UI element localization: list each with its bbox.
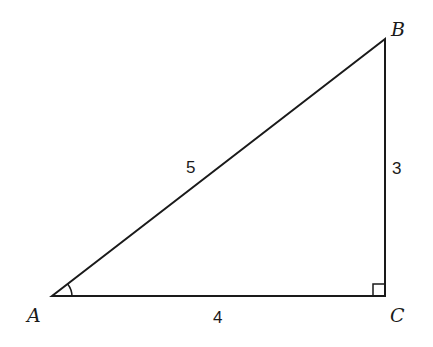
side-label-ac: 4 <box>213 308 222 327</box>
side-label-ab: 5 <box>186 158 195 177</box>
vertex-label-c: C <box>390 304 405 326</box>
right-angle-mark <box>373 284 385 296</box>
triangle-abc <box>52 39 385 296</box>
side-label-bc: 3 <box>392 159 401 178</box>
vertex-label-a: A <box>25 304 41 326</box>
angle-arc-a <box>68 284 72 296</box>
vertex-label-b: B <box>390 18 405 40</box>
triangle-diagram: A B C 5 3 4 <box>0 0 433 347</box>
